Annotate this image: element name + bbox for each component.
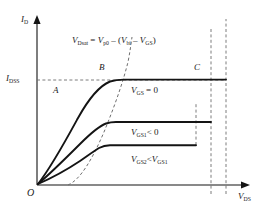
chart-canvas	[0, 0, 268, 212]
reference-lines-group	[37, 19, 226, 194]
curve-label-vgs2: VGS2<VGS1	[131, 155, 168, 164]
y-axis-label: ID	[21, 15, 28, 24]
point-label-b: B	[99, 63, 105, 72]
jfet-characteristics-figure: ID VDS O IDSS VDsat = Vp0 – (Vbi – VGS) …	[0, 0, 268, 212]
curve-vgs2	[38, 145, 196, 184]
x-axis-arrowhead	[241, 181, 250, 188]
origin-label: O	[27, 188, 34, 198]
curve-vgs1	[38, 122, 211, 184]
point-label-a: A	[53, 86, 59, 95]
curve-label-vgs-zero: VGS = 0	[131, 86, 158, 95]
curve-label-vgs1: VGS1< 0	[131, 128, 159, 137]
point-label-c: C	[194, 63, 200, 72]
y-axis-arrowhead	[33, 15, 40, 24]
y-tick-label-idss: IDSS	[6, 74, 20, 83]
x-axis-label: VDS	[238, 192, 251, 201]
saturation-voltage-formula: VDsat = Vp0 – (Vbi – VGS)	[72, 36, 156, 45]
